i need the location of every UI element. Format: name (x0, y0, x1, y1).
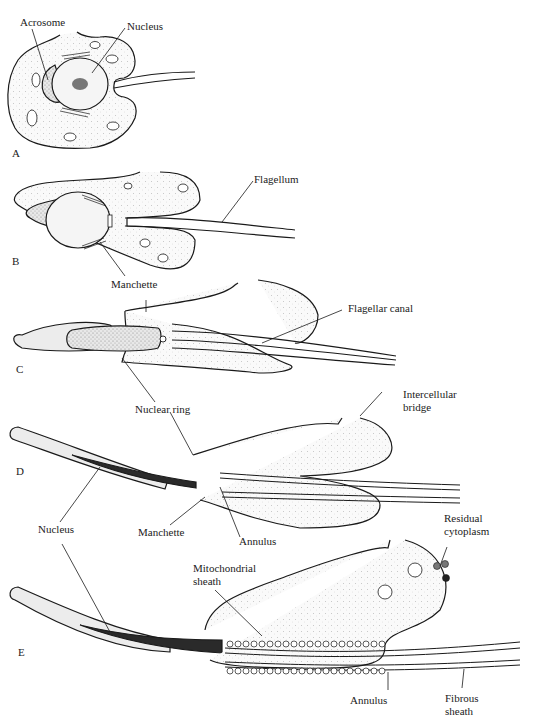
label-intercellular-bridge-2: bridge (403, 401, 431, 414)
leader-nucleus-d (60, 467, 100, 522)
stage-c-cell (14, 280, 396, 373)
stage-label-b: B (12, 255, 19, 267)
stage-label-e: E (18, 646, 25, 658)
stage-e-cell (10, 540, 520, 670)
stage-label-c: C (16, 363, 23, 375)
label-acrosome: Acrosome (20, 16, 65, 29)
stage-a-cell (8, 32, 195, 148)
leader-fibrous-sheath (462, 669, 464, 688)
leader-nuclear-ring-d (170, 412, 193, 455)
label-intercellular-bridge-1: Intercellular (403, 388, 457, 401)
spermiogenesis-diagram (0, 0, 539, 719)
stage-d-cell (10, 418, 460, 528)
cell-membrane (122, 280, 318, 373)
label-annulus-e: Annulus (350, 694, 387, 707)
label-manchette-d: Manchette (138, 526, 184, 539)
label-annulus-d: Annulus (239, 535, 276, 548)
label-fibrous-sheath-1: Fibrous (445, 692, 479, 705)
label-flagellum: Flagellum (254, 173, 299, 186)
stage-label-a: A (12, 147, 20, 159)
leader-flagellum (222, 181, 253, 222)
label-mitochondrial-sheath-1: Mitochondrial (193, 562, 256, 575)
nucleus (67, 326, 161, 351)
label-fibrous-sheath-2: sheath (445, 705, 473, 718)
nucleus-dark (72, 455, 196, 488)
head (10, 427, 168, 489)
label-mitochondrial-sheath-2: sheath (193, 575, 221, 588)
label-residual-cytoplasm-2: cytoplasm (444, 525, 489, 538)
label-nuclear-ring: Nuclear ring (135, 403, 190, 416)
label-nucleus-a: Nucleus (127, 20, 163, 33)
label-manchette-b: Manchette (111, 278, 157, 291)
label-nucleus-d: Nucleus (38, 523, 74, 536)
label-residual-cytoplasm-1: Residual (444, 512, 483, 525)
leader-intercellular-bridge (360, 392, 382, 416)
label-flagellar-canal: Flagellar canal (348, 302, 413, 315)
stage-b-cell (14, 172, 295, 269)
leader-manchette-d (170, 497, 205, 525)
stage-label-d: D (16, 465, 24, 477)
